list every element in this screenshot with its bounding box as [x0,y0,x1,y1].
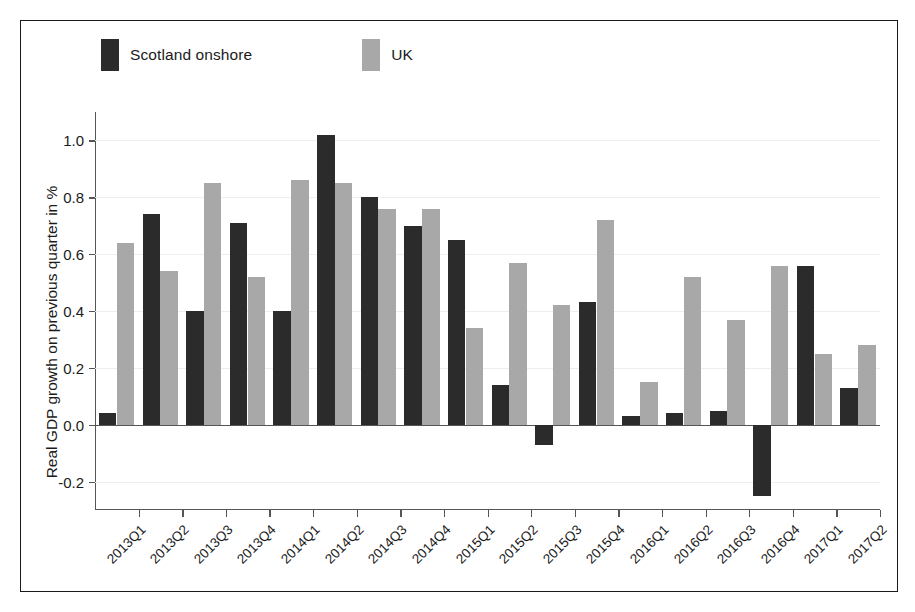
y-axis-tick-label: 0.0 [63,416,84,433]
gridline [95,140,880,141]
bar-2013q3-scotland-onshore [186,311,203,425]
bar-2014q2-scotland-onshore [317,135,334,425]
x-axis-tick [706,510,707,517]
bar-2013q3-uk [204,183,221,425]
y-axis-tick [89,197,95,198]
x-axis-tick [618,510,619,517]
y-axis-tick [89,140,95,141]
bar-2013q1-uk [117,243,134,425]
legend-item-scotland-onshore: Scotland onshore [101,39,252,71]
legend-label-uk: UK [391,46,413,64]
x-axis-tick [662,510,663,517]
x-axis-tick [269,510,270,517]
x-axis-tick [531,510,532,517]
bar-2013q4-uk [248,277,265,425]
y-axis-tick [89,254,95,255]
y-axis-tick-label: 1.0 [63,132,84,149]
chart-legend: Scotland onshore UK [101,35,413,75]
y-axis-title: Real GDP growth on previous quarter in % [39,133,65,531]
bar-2015q4-uk [597,220,614,425]
bar-2016q3-scotland-onshore [710,411,727,425]
x-axis-tick [749,510,750,517]
x-axis-tick [226,510,227,517]
bar-2014q3-uk [378,209,395,425]
x-axis-tick [139,510,140,517]
y-axis-tick-label: 0.8 [63,189,84,206]
bar-2017q1-scotland-onshore [797,266,814,425]
legend-item-uk: UK [362,39,413,71]
legend-label-scotland-onshore: Scotland onshore [130,46,252,64]
x-axis-tick [444,510,445,517]
x-axis-tick [880,510,881,517]
y-axis-tick-label: 0.6 [63,246,84,263]
bar-2016q3-uk [727,320,744,425]
y-axis-tick [89,482,95,483]
bar-2015q1-uk [466,328,483,425]
bar-2013q2-uk [160,271,177,425]
y-axis-tick-label: -0.2 [58,473,84,490]
bar-2015q3-scotland-onshore [535,425,552,445]
x-axis-tick [182,510,183,517]
legend-swatch-scotland-onshore [101,39,119,71]
bar-2014q4-uk [422,209,439,425]
bar-2017q2-uk [858,345,875,425]
x-axis-tick [793,510,794,517]
bar-2013q4-scotland-onshore [230,223,247,425]
bar-2015q4-scotland-onshore [579,302,596,424]
bar-2015q2-scotland-onshore [492,385,509,425]
bar-2015q2-uk [509,263,526,425]
x-axis-tick [488,510,489,517]
bar-2015q3-uk [553,305,570,424]
bar-2017q1-uk [815,354,832,425]
y-axis-tick [89,311,95,312]
x-axis-tick [313,510,314,517]
bar-2017q2-scotland-onshore [840,388,857,425]
plot-area: 1.00.80.60.40.20.0-0.22013Q12013Q22013Q3… [95,112,880,510]
bar-2016q1-uk [640,382,657,425]
bar-2014q1-uk [291,180,308,424]
bar-2016q2-scotland-onshore [666,413,683,424]
bar-2014q1-scotland-onshore [273,311,290,425]
y-axis-tick-label: 0.2 [63,359,84,376]
bar-2016q1-scotland-onshore [622,416,639,425]
bar-2013q2-scotland-onshore [143,214,160,424]
bar-2016q4-scotland-onshore [753,425,770,496]
bar-2013q1-scotland-onshore [99,413,116,424]
bar-2016q2-uk [684,277,701,425]
x-axis-tick [400,510,401,517]
bar-2016q4-uk [771,266,788,425]
legend-swatch-uk [362,39,380,71]
bar-2014q4-scotland-onshore [404,226,421,425]
bar-2015q1-scotland-onshore [448,240,465,425]
x-axis-tick [575,510,576,517]
y-axis-tick-label: 0.4 [63,303,84,320]
bar-2014q3-scotland-onshore [361,197,378,424]
x-axis-tick [357,510,358,517]
y-axis-tick [89,368,95,369]
x-axis-tick [836,510,837,517]
bar-2014q2-uk [335,183,352,425]
